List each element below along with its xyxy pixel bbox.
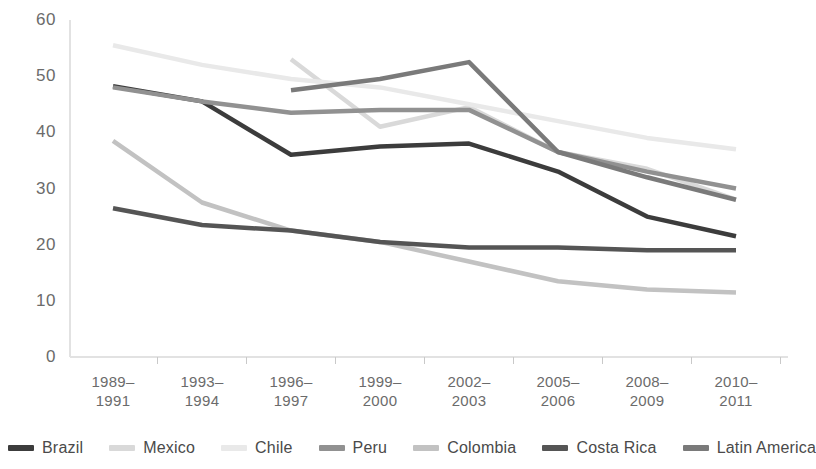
legend-swatch-icon xyxy=(319,445,345,451)
legend-item-costa-rica[interactable]: Costa Rica xyxy=(542,439,656,457)
x-axis-tick-label: 1999– 2000 xyxy=(337,373,423,411)
x-axis-tick-label: 2010– 2011 xyxy=(693,373,779,411)
legend-item-chile[interactable]: Chile xyxy=(221,439,292,457)
y-axis-tick-label: 40 xyxy=(0,123,56,140)
legend-swatch-icon xyxy=(542,445,568,451)
x-axis-tick-label: 1989– 1991 xyxy=(70,373,156,411)
legend-swatch-icon xyxy=(221,445,247,451)
x-axis-tick-label: 1996– 1997 xyxy=(248,373,334,411)
chart-series-layer xyxy=(113,45,736,292)
x-axis-tick-label: 1993– 1994 xyxy=(159,373,245,411)
legend-swatch-icon xyxy=(683,445,709,451)
y-axis-tick-label: 20 xyxy=(0,236,56,253)
legend-item-label: Costa Rica xyxy=(576,439,656,457)
series-line-chile xyxy=(113,45,736,149)
legend-swatch-icon xyxy=(413,445,439,451)
legend-item-mexico[interactable]: Mexico xyxy=(109,439,195,457)
legend-item-label: Chile xyxy=(255,439,292,457)
legend-item-label: Mexico xyxy=(143,439,195,457)
legend-item-colombia[interactable]: Colombia xyxy=(413,439,516,457)
y-axis-tick-label: 10 xyxy=(0,292,56,309)
y-axis-tick-label: 0 xyxy=(0,348,56,365)
y-axis-tick-label: 30 xyxy=(0,180,56,197)
legend-swatch-icon xyxy=(8,445,34,451)
legend-item-label: Colombia xyxy=(447,439,516,457)
legend-swatch-icon xyxy=(109,445,135,451)
y-axis-tick-label: 60 xyxy=(0,11,56,28)
legend-item-label: Latin America xyxy=(717,439,816,457)
x-axis-tick-label: 2002– 2003 xyxy=(426,373,512,411)
y-axis-tick-label: 50 xyxy=(0,67,56,84)
chart-legend: BrazilMexicoChilePeruColombiaCosta RicaL… xyxy=(0,437,800,459)
x-axis-tick-label: 2005– 2006 xyxy=(515,373,601,411)
legend-item-label: Peru xyxy=(353,439,388,457)
legend-item-label: Brazil xyxy=(42,439,83,457)
x-axis-tick-label: 2008– 2009 xyxy=(604,373,690,411)
legend-item-brazil[interactable]: Brazil xyxy=(8,439,83,457)
legend-item-peru[interactable]: Peru xyxy=(319,439,388,457)
legend-item-latin-america[interactable]: Latin America xyxy=(683,439,816,457)
